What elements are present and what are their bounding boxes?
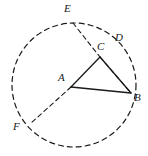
segment-AC	[71, 57, 100, 87]
geometry-canvas	[0, 0, 148, 156]
vertex-label-C: C	[97, 41, 104, 52]
vertex-label-D: D	[115, 32, 123, 43]
geometry-figure: E D C A B F	[0, 0, 148, 156]
vertex-label-A: A	[58, 72, 65, 83]
segment-AF-dashed	[30, 87, 71, 124]
segment-CB	[100, 57, 131, 93]
vertex-label-E: E	[64, 3, 71, 14]
segment-AB	[71, 87, 131, 93]
vertex-label-F: F	[13, 121, 20, 132]
segment-EC-dashed	[73, 23, 100, 57]
vertex-label-B: B	[134, 92, 141, 103]
